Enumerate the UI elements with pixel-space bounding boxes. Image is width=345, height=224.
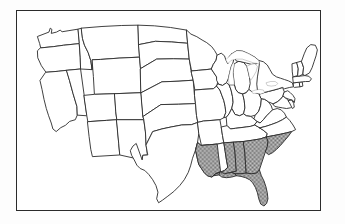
state-massachusetts[interactable] bbox=[293, 76, 311, 83]
state-maine[interactable] bbox=[302, 45, 318, 76]
state-georgia[interactable] bbox=[244, 137, 268, 174]
state-mississippi[interactable] bbox=[196, 142, 237, 177]
state-colorado[interactable] bbox=[115, 93, 144, 120]
state-utah[interactable] bbox=[84, 94, 117, 122]
us-map bbox=[17, 11, 320, 210]
lake-erie bbox=[251, 89, 264, 94]
map-frame bbox=[16, 10, 321, 211]
state-florida[interactable] bbox=[235, 170, 268, 206]
figure-container bbox=[0, 0, 345, 224]
state-arkansas[interactable] bbox=[198, 120, 224, 146]
states-layer bbox=[37, 25, 317, 206]
state-oregon[interactable] bbox=[37, 44, 80, 73]
state-rhode-island[interactable] bbox=[300, 82, 303, 87]
state-new-york[interactable] bbox=[257, 60, 294, 94]
state-wyoming[interactable] bbox=[92, 57, 141, 94]
state-arizona[interactable] bbox=[88, 120, 120, 157]
